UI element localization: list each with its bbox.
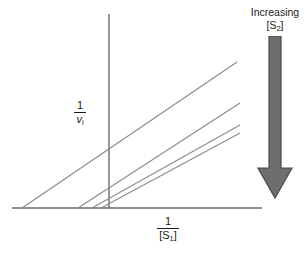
x-axis-denominator: [S1] bbox=[157, 229, 179, 242]
figure-canvas: 1 vi 1 [S1] Increasing [S2] bbox=[0, 0, 306, 256]
y-axis-denominator: vi bbox=[74, 113, 86, 126]
legend-increasing-text: Increasing bbox=[246, 6, 304, 19]
data-line bbox=[101, 133, 240, 208]
down-arrow-icon bbox=[246, 36, 304, 202]
data-line bbox=[22, 62, 237, 208]
data-line bbox=[78, 103, 240, 208]
legend-substrate-text: [S2] bbox=[246, 19, 304, 33]
x-axis-numerator: 1 bbox=[157, 216, 179, 229]
y-axis-fraction: 1 vi bbox=[74, 100, 86, 125]
y-axis-denominator-subscript: i bbox=[82, 118, 84, 127]
y-axis-label: 1 vi bbox=[60, 100, 100, 125]
x-axis-label: 1 [S1] bbox=[144, 216, 192, 241]
x-axis-denominator-subscript: 1 bbox=[170, 234, 174, 243]
x-axis-fraction: 1 [S1] bbox=[157, 216, 179, 241]
x-axis-denominator-open: [S bbox=[159, 229, 169, 241]
data-line bbox=[92, 125, 240, 208]
data-line-group bbox=[22, 62, 240, 208]
legend-substrate-prefix: [S bbox=[266, 19, 276, 31]
legend-substrate-subscript: 2 bbox=[276, 24, 280, 33]
legend-block: Increasing [S2] bbox=[246, 6, 304, 33]
y-axis-numerator: 1 bbox=[74, 100, 86, 113]
x-axis-denominator-close: ] bbox=[174, 229, 177, 241]
legend-substrate-suffix: ] bbox=[281, 19, 284, 31]
increasing-arrow-wrapper bbox=[246, 36, 304, 202]
